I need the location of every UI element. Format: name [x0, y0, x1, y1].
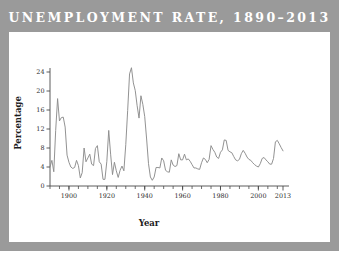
- y-tick-label: 20: [36, 87, 44, 95]
- x-tick-label: 1900: [61, 192, 77, 200]
- chart-panel: 048121620241900192019401960198020002013 …: [9, 32, 330, 242]
- chart-card-frame: UNEMPLOYMENT RATE, 1890–2013 04812162024…: [0, 0, 339, 251]
- x-tick-label: 1920: [99, 192, 115, 200]
- y-tick-label: 8: [40, 144, 44, 152]
- y-tick-label: 0: [40, 182, 44, 190]
- x-tick-label: 2000: [250, 192, 266, 200]
- y-tick-label: 24: [36, 68, 44, 76]
- y-tick-label: 16: [36, 106, 44, 114]
- x-tick-label: 1980: [212, 192, 228, 200]
- data-series-line: [50, 68, 283, 181]
- x-axis-title: Year: [9, 218, 289, 228]
- chart-svg: 048121620241900192019401960198020002013: [9, 32, 330, 242]
- y-tick-label: 12: [36, 125, 44, 133]
- x-tick-label: 2013: [275, 192, 291, 200]
- x-tick-label: 1940: [137, 192, 153, 200]
- line-chart: 048121620241900192019401960198020002013: [9, 32, 330, 242]
- page-title: UNEMPLOYMENT RATE, 1890–2013: [0, 6, 339, 30]
- x-tick-label: 1960: [174, 192, 190, 200]
- y-tick-label: 4: [40, 163, 44, 171]
- y-axis-title: Percentage: [13, 88, 23, 158]
